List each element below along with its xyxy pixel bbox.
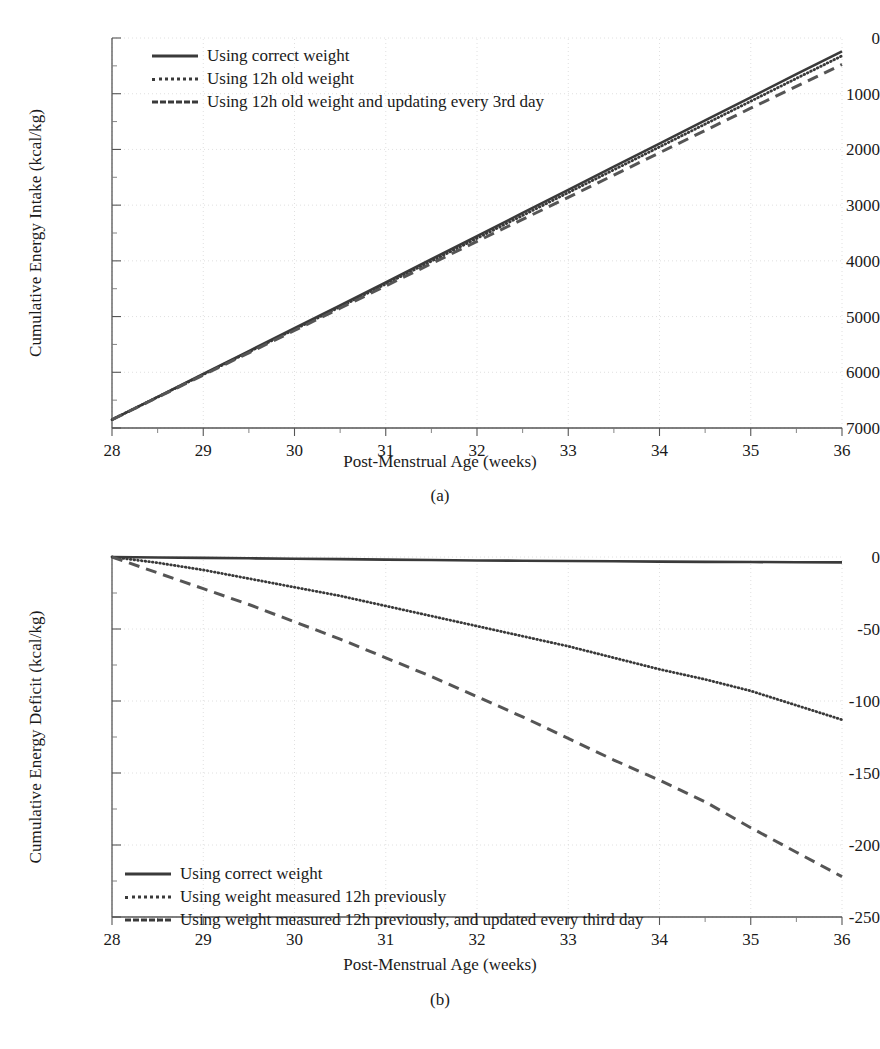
panel-a-y-tick-label: 4000	[780, 252, 880, 269]
series-line-dotted	[112, 557, 842, 720]
panel-b-x-tick-label: 36	[834, 931, 851, 948]
panel-b-x-tick-label: 31	[377, 931, 394, 948]
panel-a-y-tick-label: 2000	[780, 141, 880, 158]
legend-item: Using correct weight	[152, 44, 544, 67]
panel-a-y-tick-label: 3000	[780, 197, 880, 214]
legend-item: Using correct weight	[125, 862, 643, 885]
panel-b-x-tick-label: 29	[195, 931, 212, 948]
panel-b-y-axis-title: Cumulative Energy Deficit (kcal/kg)	[26, 557, 46, 917]
figure-page: Cumulative Energy Intake (kcal/kg) 70006…	[0, 0, 880, 1049]
legend-swatch-dotted-icon	[125, 890, 171, 904]
panel-b-x-tick-label: 35	[742, 931, 759, 948]
panel-a-caption: (a)	[0, 486, 880, 506]
legend-item: Using weight measured 12h previously, an…	[125, 908, 643, 931]
panel-b-x-tick-label: 28	[104, 931, 121, 948]
series-line-solid	[112, 557, 842, 562]
legend-label: Using correct weight	[207, 47, 350, 64]
panel-b-x-tick-label: 32	[469, 931, 486, 948]
panel-b-caption: (b)	[0, 990, 880, 1010]
panel-b-x-tick-label: 34	[651, 931, 668, 948]
legend-swatch-dotted-icon	[152, 72, 198, 86]
panel-b: Cumulative Energy Deficit (kcal/kg) 0-50…	[0, 524, 880, 1049]
panel-b-x-axis-title: Post-Menstrual Age (weeks)	[0, 955, 880, 975]
panel-b-legend: Using correct weightUsing weight measure…	[125, 862, 643, 931]
legend-label: Using 12h old weight	[207, 70, 354, 87]
legend-label: Using weight measured 12h previously, an…	[180, 911, 643, 928]
panel-a-y-tick-label: 5000	[780, 308, 880, 325]
panel-b-y-tick-label: -50	[780, 621, 880, 638]
legend-swatch-solid-icon	[152, 49, 198, 63]
legend-swatch-dashed-icon	[125, 913, 171, 927]
legend-item: Using 12h old weight	[152, 67, 544, 90]
panel-a: Cumulative Energy Intake (kcal/kg) 70006…	[0, 0, 880, 524]
legend-label: Using weight measured 12h previously	[180, 888, 446, 905]
panel-a-y-tick-label: 6000	[780, 364, 880, 381]
panel-b-x-tick-label: 33	[560, 931, 577, 948]
panel-b-y-tick-label: -100	[780, 693, 880, 710]
panel-b-y-tick-label: -250	[780, 909, 880, 926]
panel-b-y-tick-label: 0	[780, 549, 880, 566]
legend-item: Using weight measured 12h previously	[125, 885, 643, 908]
legend-label: Using correct weight	[180, 865, 323, 882]
panel-a-y-tick-label: 0	[780, 30, 880, 47]
panel-b-y-tick-label: -150	[780, 765, 880, 782]
panel-b-x-tick-label: 30	[286, 931, 303, 948]
legend-label: Using 12h old weight and updating every …	[207, 93, 544, 110]
panel-a-x-axis-title: Post-Menstrual Age (weeks)	[0, 452, 880, 472]
panel-b-y-tick-label: -200	[780, 837, 880, 854]
legend-item: Using 12h old weight and updating every …	[152, 90, 544, 113]
panel-a-legend: Using correct weightUsing 12h old weight…	[152, 44, 544, 113]
panel-a-y-tick-label: 7000	[780, 420, 880, 437]
legend-swatch-dashed-icon	[152, 95, 198, 109]
panel-a-y-axis-title: Cumulative Energy Intake (kcal/kg)	[26, 38, 46, 428]
legend-swatch-solid-icon	[125, 867, 171, 881]
panel-a-y-tick-label: 1000	[780, 85, 880, 102]
